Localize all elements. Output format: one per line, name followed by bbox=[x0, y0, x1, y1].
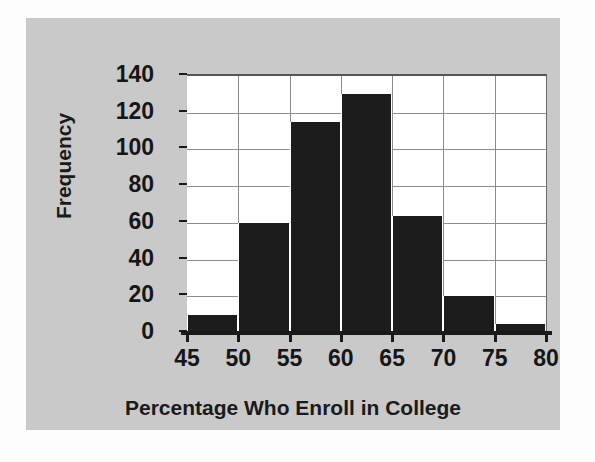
x-axis-title: Percentage Who Enroll in College bbox=[26, 396, 560, 420]
y-tick-mark bbox=[179, 73, 187, 75]
y-tick-mark bbox=[179, 293, 187, 295]
y-tick-label: 80 bbox=[88, 173, 154, 196]
y-tick-label: 0 bbox=[88, 320, 154, 343]
bar-65-70 bbox=[392, 216, 443, 333]
bar-70-75 bbox=[443, 296, 494, 333]
x-tick-mark bbox=[442, 331, 445, 342]
x-tick-mark bbox=[237, 331, 240, 342]
y-tick-mark bbox=[179, 183, 187, 185]
x-tick-mark bbox=[340, 331, 343, 342]
plot-area bbox=[187, 74, 547, 333]
y-tick-mark bbox=[179, 257, 187, 259]
x-tick-mark bbox=[186, 331, 189, 342]
x-tick-mark bbox=[289, 331, 292, 342]
x-tick-mark bbox=[545, 331, 548, 342]
y-tick-label: 60 bbox=[88, 209, 154, 232]
y-tick-mark bbox=[179, 146, 187, 148]
y-axis-tick-labels: 020406080100120140 bbox=[88, 46, 154, 316]
x-tick-label: 80 bbox=[516, 346, 576, 371]
bar-55-60 bbox=[290, 122, 341, 333]
y-tick-label: 40 bbox=[88, 246, 154, 269]
x-tick-mark bbox=[391, 331, 394, 342]
y-tick-mark bbox=[179, 110, 187, 112]
y-tick-mark bbox=[179, 220, 187, 222]
bar-60-65 bbox=[341, 94, 392, 333]
bar-50-55 bbox=[238, 223, 289, 333]
bars-group bbox=[187, 76, 546, 333]
figure-canvas: Frequency 020406080100120140 45505560657… bbox=[0, 0, 595, 462]
chart-panel: Frequency 020406080100120140 45505560657… bbox=[26, 18, 560, 430]
y-tick-label: 140 bbox=[88, 63, 154, 86]
y-tick-label: 100 bbox=[88, 136, 154, 159]
y-tick-label: 120 bbox=[88, 99, 154, 122]
y-axis-title: Frequency bbox=[52, 86, 76, 246]
y-tick-label: 20 bbox=[88, 283, 154, 306]
x-tick-mark bbox=[494, 331, 497, 342]
